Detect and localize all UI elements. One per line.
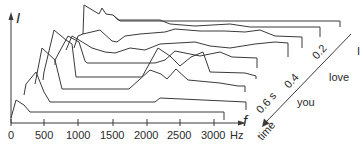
tick-label-3000: 3000 (201, 129, 225, 141)
word-love: love (329, 71, 349, 83)
tick-label-1500: 1500 (100, 129, 124, 141)
tick-label-2500: 2500 (167, 129, 191, 141)
time-tick-06: 0.6 s (254, 89, 279, 115)
chart-canvas: I f 0 500 1000 1500 2000 2500 3000 Hz (0, 0, 364, 146)
tick-label-500: 500 (35, 129, 53, 141)
frame-2-curve (35, 48, 245, 92)
spectral-frames (11, 5, 340, 120)
frame-1-curve (24, 72, 246, 110)
x-axis-title: f (243, 112, 249, 129)
tick-label-1000: 1000 (66, 129, 90, 141)
y-axis-title: I (16, 9, 20, 26)
waterfall-spectrogram-chart: I f 0 500 1000 1500 2000 2500 3000 Hz (0, 0, 364, 146)
time-axis-title: time (255, 119, 278, 142)
y-axis-arrow-icon (9, 12, 14, 20)
time-tick-02: 0.2 (310, 42, 329, 61)
frame-0-curve (11, 100, 224, 120)
time-tick-04: 0.4 (282, 71, 301, 90)
x-tick-labels: 0 500 1000 1500 2000 2500 3000 Hz (8, 129, 243, 141)
tick-label-2000: 2000 (134, 129, 158, 141)
x-unit-label: Hz (230, 129, 243, 141)
word-i: I (357, 45, 360, 57)
word-you: you (297, 96, 315, 108)
frame-5-curve (66, 36, 288, 57)
frame-6-curve (74, 29, 302, 48)
tick-label-0: 0 (8, 129, 14, 141)
